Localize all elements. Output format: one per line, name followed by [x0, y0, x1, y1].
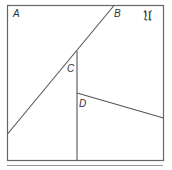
- label-c: C: [67, 63, 75, 74]
- label-d: D: [79, 98, 86, 109]
- diagram-canvas: A B C D 𝔘: [0, 0, 172, 170]
- label-a: A: [12, 8, 20, 19]
- line-ab: [8, 6, 115, 135]
- label-b: B: [114, 8, 121, 19]
- universe-label: 𝔘: [143, 8, 152, 24]
- universe-frame: [8, 6, 164, 161]
- line-d-right: [77, 93, 164, 118]
